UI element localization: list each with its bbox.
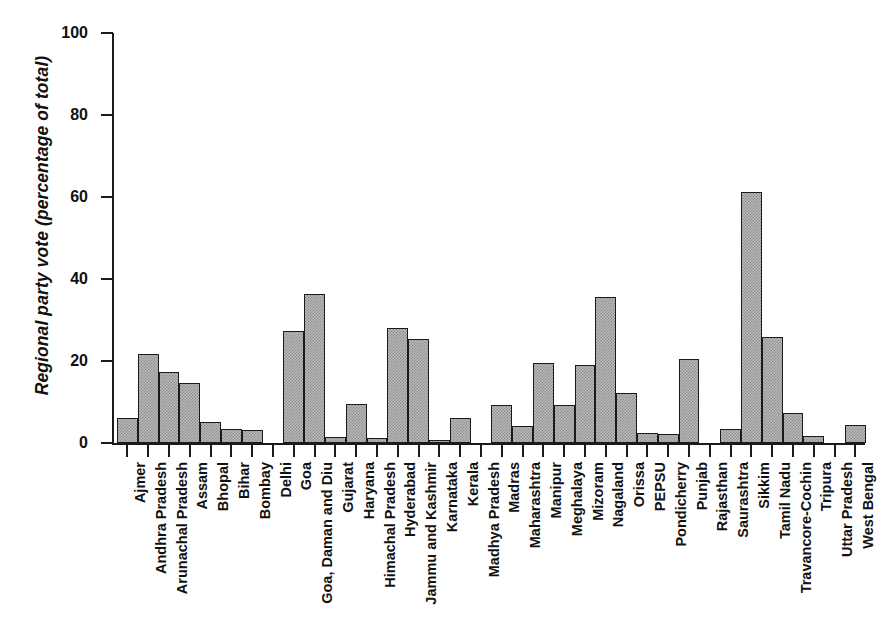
bar <box>346 404 367 443</box>
x-axis-tick <box>314 445 316 457</box>
bar <box>200 422 221 443</box>
x-axis-tick-label: Goa, Daman and Diu <box>320 462 335 604</box>
x-axis-tick-label: Andhra Pradesh <box>154 462 169 574</box>
x-axis-tick <box>542 445 544 457</box>
x-axis-tick <box>813 445 815 457</box>
bar <box>179 383 200 443</box>
x-axis-tick-label: Delhi <box>279 462 294 497</box>
x-axis-tick-label: Orissa <box>632 462 647 507</box>
y-axis-tick-label: 20 <box>44 353 88 369</box>
x-axis-tick <box>667 445 669 457</box>
x-axis-tick <box>334 445 336 457</box>
y-axis-tick-label: 0 <box>44 435 88 451</box>
bar <box>658 434 679 443</box>
y-axis-tick-label: 80 <box>44 107 88 123</box>
chart-figure: Regional party vote (percentage of total… <box>0 0 889 624</box>
x-axis-tick-label: Tripura <box>819 462 834 511</box>
x-axis-tick-label: Punjab <box>695 462 710 510</box>
x-axis-tick <box>272 445 274 457</box>
x-axis-tick-label: Goa <box>299 462 314 490</box>
x-axis-tick-label: Assam <box>195 462 210 510</box>
bar <box>117 418 138 443</box>
x-axis-tick <box>459 445 461 457</box>
bar <box>387 328 408 443</box>
x-axis-tick-label: Bombay <box>258 462 273 519</box>
x-axis-tick-label: Pondicherry <box>674 462 689 547</box>
x-axis-tick <box>355 445 357 457</box>
bar <box>575 365 596 443</box>
y-axis-tick <box>101 360 113 362</box>
x-axis-tick-label: Haryana <box>362 462 377 519</box>
x-axis-tick-label: Manipur <box>549 462 564 518</box>
bar <box>637 433 658 443</box>
bar <box>845 425 866 443</box>
bar <box>408 339 429 443</box>
x-axis-tick-label: Sikkim <box>757 462 772 509</box>
bar <box>762 337 783 443</box>
x-axis-tick <box>147 445 149 457</box>
bar <box>159 372 180 443</box>
bar <box>450 418 471 443</box>
x-axis-tick <box>230 445 232 457</box>
x-axis-tick-label: Saurashtra <box>736 462 751 538</box>
y-axis-tick-label: 40 <box>44 271 88 287</box>
x-axis-tick-label: Nagaland <box>611 462 626 527</box>
y-axis-tick <box>101 278 113 280</box>
y-axis-tick-label: 100 <box>44 25 88 41</box>
x-axis-tick <box>626 445 628 457</box>
x-axis-tick <box>688 445 690 457</box>
x-axis-tick-label: Hyderabad <box>403 462 418 537</box>
bar <box>138 354 159 443</box>
bar <box>616 393 637 443</box>
x-axis-tick <box>189 445 191 457</box>
x-axis-tick <box>584 445 586 457</box>
bar <box>242 430 263 443</box>
y-axis-title: Regional party vote (percentage of total… <box>32 16 53 436</box>
x-axis-tick-label: West Bengal <box>861 462 876 549</box>
y-axis-line <box>112 33 114 444</box>
bar <box>741 192 762 443</box>
x-axis-tick-label: Rajasthan <box>715 462 730 531</box>
bar <box>595 297 616 443</box>
bar <box>720 429 741 443</box>
x-axis-tick <box>730 445 732 457</box>
x-axis-tick-label: Bhopal <box>216 462 231 511</box>
x-axis-tick-label: Ajmer <box>133 462 148 503</box>
x-axis-tick <box>834 445 836 457</box>
bar <box>304 294 325 443</box>
x-axis-tick <box>210 445 212 457</box>
x-axis-tick <box>522 445 524 457</box>
x-axis-tick <box>605 445 607 457</box>
x-axis-tick <box>646 445 648 457</box>
x-axis-tick <box>251 445 253 457</box>
x-axis-tick <box>397 445 399 457</box>
bar <box>783 413 804 443</box>
x-axis-tick <box>168 445 170 457</box>
x-axis-tick-label: Arunachal Pradesh <box>175 462 190 594</box>
bar <box>679 359 700 443</box>
x-axis-tick-label: Travancore-Cochin <box>799 462 814 593</box>
x-axis-tick <box>750 445 752 457</box>
x-axis-tick <box>438 445 440 457</box>
x-axis-tick-label: Meghalaya <box>570 462 585 536</box>
x-axis-tick <box>563 445 565 457</box>
x-axis-tick-label: Maharashtra <box>528 462 543 548</box>
x-axis-tick-label: Tamil Nadu <box>778 462 793 539</box>
plot-area <box>117 33 865 443</box>
y-axis-tick <box>101 114 113 116</box>
x-axis-tick <box>293 445 295 457</box>
y-axis-tick <box>101 196 113 198</box>
y-axis-tick-label: 60 <box>44 189 88 205</box>
x-axis-tick-label: Jammu and Kashmir <box>424 462 439 605</box>
y-axis-tick <box>101 442 113 444</box>
bar <box>367 438 388 443</box>
bar <box>803 436 824 443</box>
x-axis-tick-label: Karnataka <box>445 462 460 532</box>
bar <box>491 405 512 443</box>
x-axis-tick-label: PEPSU <box>653 462 668 511</box>
bar <box>221 429 242 443</box>
bar <box>283 331 304 443</box>
x-axis-tick-label: Gujarat <box>341 462 356 513</box>
x-axis-tick-label: Madhya Pradesh <box>487 462 502 577</box>
y-axis-tick <box>101 32 113 34</box>
